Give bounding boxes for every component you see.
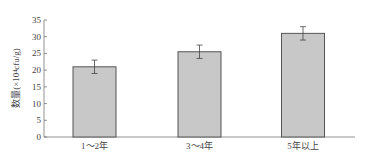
y-tick-label: 5 (37, 115, 42, 125)
x-category-label: 3～4年 (186, 140, 213, 151)
bar (73, 67, 116, 137)
bars (73, 27, 325, 137)
y-tick-label: 35 (32, 15, 42, 25)
bar-chart: 05101520253035数量(×10⁴cfu/g)1～2年3～4年5年以上 (0, 0, 372, 156)
y-axis-label: 数量(×10⁴cfu/g) (10, 48, 21, 108)
labels: 05101520253035数量(×10⁴cfu/g)1～2年3～4年5年以上 (10, 15, 319, 151)
y-tick-label: 20 (32, 65, 42, 75)
y-tick-label: 10 (32, 99, 42, 109)
bar (178, 52, 221, 137)
y-tick-label: 0 (37, 132, 42, 142)
y-tick-label: 25 (32, 48, 42, 58)
y-tick-label: 15 (32, 82, 42, 92)
y-tick-label: 30 (32, 32, 42, 42)
x-category-label: 1～2年 (81, 140, 108, 151)
x-category-label: 5年以上 (287, 140, 319, 151)
bar (282, 33, 325, 137)
